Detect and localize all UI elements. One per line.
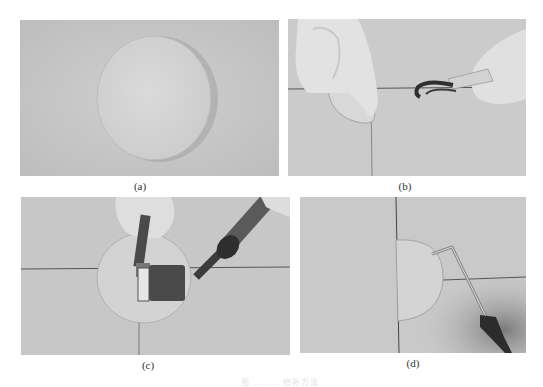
panel-label-d: (d) (393, 357, 433, 369)
figure-caption: 图 ……… 修补方法 (200, 376, 360, 387)
hot-air-welding-photo (288, 19, 526, 176)
panel-label-a: (a) (120, 180, 160, 192)
roller-pressing-photo (21, 197, 290, 355)
photo-panel-c (21, 197, 290, 355)
photo-panel-b (288, 19, 526, 176)
membrane-patch-photo (20, 20, 279, 176)
panel-label-c: (c) (128, 359, 168, 371)
panel-label-b: (b) (385, 180, 425, 192)
photo-panel-a (20, 20, 279, 176)
photo-panel-d (300, 197, 526, 353)
seam-probe-inspection-photo (300, 197, 526, 353)
